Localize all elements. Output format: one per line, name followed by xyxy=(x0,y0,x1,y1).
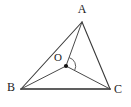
segment-oa xyxy=(66,22,82,66)
label-vertex-a: A xyxy=(78,2,87,16)
label-vertex-b: B xyxy=(7,80,15,94)
label-point-o: O xyxy=(54,51,62,63)
geometry-figure: A B C O xyxy=(0,0,131,107)
label-vertex-c: C xyxy=(114,82,122,96)
point-o-dot xyxy=(64,64,68,68)
segment-ob xyxy=(21,66,66,89)
segment-oc xyxy=(66,66,110,89)
segment-ab xyxy=(21,22,82,89)
segment-ac xyxy=(82,22,110,89)
geometry-canvas: A B C O xyxy=(0,0,131,107)
